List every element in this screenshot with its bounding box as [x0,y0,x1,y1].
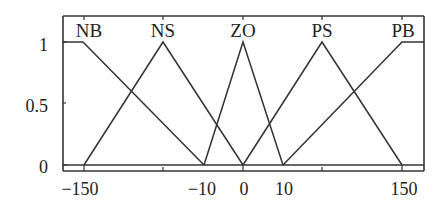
x-label-0: 0 [240,179,249,199]
y-label-1: 1 [39,35,48,55]
curve-nb [63,42,204,165]
curve-pb [283,42,424,165]
membership-function-chart: NB NS ZO PS PB 1 0.5 0 −150 −10 0 10 150 [0,0,446,210]
label-pb: PB [391,20,414,41]
y-tick-labels: 1 0.5 0 [26,35,49,177]
y-label-0-5: 0.5 [26,96,49,116]
label-nb: NB [76,20,102,41]
y-label-0: 0 [39,157,48,177]
membership-curves [63,42,424,165]
label-zo: ZO [230,20,255,41]
x-label-neg10: −10 [188,179,216,199]
x-label-150: 150 [391,179,418,199]
x-label-neg150: −150 [61,179,98,199]
set-labels: NB NS ZO PS PB [76,20,415,41]
curve-zo [204,42,283,165]
label-ns: NS [151,20,175,41]
x-label-10: 10 [275,179,293,199]
label-ps: PS [311,20,332,41]
bottom-ticks [84,165,402,171]
curve-ns [84,42,243,165]
x-tick-labels: −150 −10 0 10 150 [61,179,417,199]
curve-ps [243,42,402,165]
